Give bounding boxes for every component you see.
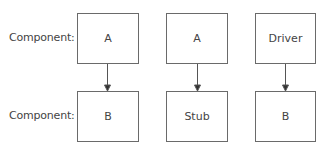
box-col3-bottom: B (255, 91, 316, 142)
box-col1-top: A (77, 13, 139, 64)
box-col2-bottom: Stub (166, 91, 228, 142)
box-col1-bottom: B (77, 91, 139, 142)
box-col3-top: Driver (255, 13, 316, 64)
box-col2-top: A (166, 13, 228, 64)
